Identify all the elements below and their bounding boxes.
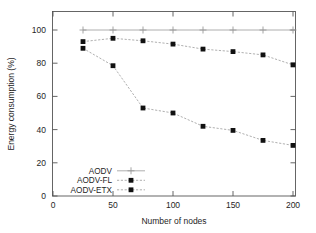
series-aodv-fl-markers [81,46,296,148]
x-tick-label-50: 50 [108,200,118,210]
y-tick-label-0: 0 [41,191,46,201]
y-tick-label-80: 80 [37,58,47,68]
y-tick-label-100: 100 [32,25,46,35]
legend-label-aodv-fl: AODV-FL [77,176,112,185]
y-tick-label-20: 20 [37,158,47,168]
x-axis-tick-labels: 0 50 100 150 200 [51,200,301,210]
legend-label-aodv: AODV [89,167,113,176]
x-tick-label-200: 200 [286,200,300,210]
legend: AODV AODV-FL AODV-ETX [71,167,145,195]
legend-square-icon-fl [117,178,145,183]
legend-square-icon-etx [117,187,145,192]
x-tick-label-100: 100 [166,200,180,210]
x-tick-label-150: 150 [226,200,240,210]
series-aodv [80,27,297,34]
legend-plus-icon [117,167,145,174]
y-axis-title: Energy consumption (%) [6,57,16,150]
legend-label-aodv-etx: AODV-ETX [71,186,113,195]
y-axis-tick-labels: 0 20 40 60 80 100 [32,25,46,201]
series-aodv-etx [81,36,296,67]
energy-consumption-line-chart: 0 20 40 60 80 100 0 50 100 150 200 Energ… [0,0,316,233]
x-tick-label-0: 0 [51,200,56,210]
y-tick-label-40: 40 [37,125,47,135]
x-axis-title: Number of nodes [141,216,206,226]
series-aodv-fl [81,46,296,148]
series-aodv-etx-markers [81,36,296,67]
y-tick-label-60: 60 [37,91,47,101]
